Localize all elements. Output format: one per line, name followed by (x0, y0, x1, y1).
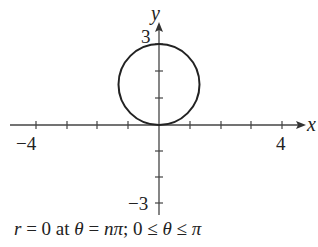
y-axis-label: y (149, 2, 160, 25)
caption-pi: π (192, 218, 202, 239)
x-axis-label: x (306, 113, 316, 135)
x-max-label: 4 (276, 133, 286, 154)
caption-text: = 0 at (21, 218, 74, 239)
caption-theta: θ (162, 218, 171, 239)
caption-pi: π (113, 218, 123, 239)
caption-theta: θ (74, 218, 83, 239)
y-max-label: 3 (141, 26, 151, 47)
y-min-label: −3 (128, 193, 148, 214)
caption-text: ; 0 ≤ (123, 218, 162, 239)
caption-text: ≤ (172, 218, 192, 239)
figure-caption: r = 0 at θ = nπ; 0 ≤ θ ≤ π (14, 218, 201, 240)
caption-text: = (84, 218, 104, 239)
x-min-label: −4 (16, 133, 37, 154)
polar-plot: y x 3 −3 −4 4 (0, 0, 318, 247)
caption-n: n (104, 218, 114, 239)
